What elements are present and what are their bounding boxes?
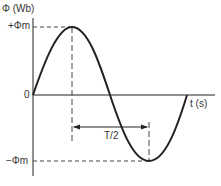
y-axis-label: Φ (Wb) <box>2 3 34 14</box>
arrow-right-icon <box>141 125 148 130</box>
neg-peak-label: −Φm <box>6 155 28 166</box>
arrow-left-icon <box>73 125 80 130</box>
flux-waveform-diagram <box>0 0 221 186</box>
zero-label: 0 <box>24 89 30 100</box>
x-axis-label: t (s) <box>190 98 207 109</box>
pos-peak-label: +Φm <box>8 20 30 31</box>
half-period-label: T/2 <box>104 130 118 141</box>
